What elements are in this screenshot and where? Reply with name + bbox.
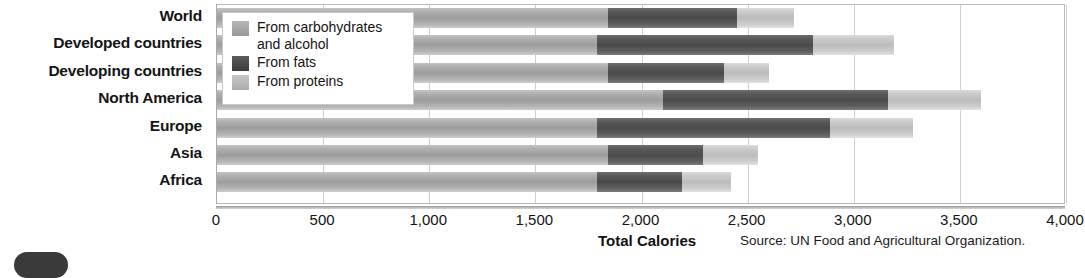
bar-segment-fats (608, 63, 725, 83)
bar-segment-fats (597, 35, 813, 55)
category-label-africa: Africa (159, 170, 202, 190)
bar-row (217, 145, 1066, 165)
bar-segment-fats (597, 118, 830, 138)
bar-segment-proteins (682, 172, 731, 192)
category-label-developing-countries: Developing countries (48, 61, 202, 81)
category-label-europe: Europe (150, 116, 202, 136)
x-tick-label: 1,500 (516, 211, 554, 228)
x-tick-label: 2,500 (728, 211, 766, 228)
bar-segment-proteins (830, 118, 913, 138)
carbohydrates-swatch-icon (232, 21, 249, 36)
legend-label-fats: From fats (257, 54, 316, 71)
legend-item-carbohydrates: From carbohydrates and alcohol (232, 19, 406, 52)
legend-item-fats: From fats (232, 54, 406, 71)
x-tick-label: 500 (310, 211, 335, 228)
x-tick-label: 3,500 (940, 211, 978, 228)
bar-segment-proteins (703, 145, 758, 165)
category-axis: WorldDeveloped countriesDeveloping count… (0, 8, 208, 200)
chart-legend: From carbohydrates and alcohol From fats… (222, 12, 414, 105)
bar-segment-fats (597, 172, 682, 192)
legend-label-proteins: From proteins (257, 73, 343, 90)
bar-segment-proteins (737, 8, 794, 28)
category-label-north-america: North America (98, 88, 202, 108)
bar-segment-fats (663, 90, 888, 110)
bar-segment-carbohydrates (217, 145, 608, 165)
legend-label-carbohydrates: From carbohydrates and alcohol (257, 19, 382, 52)
x-tick-label: 1,000 (409, 211, 447, 228)
page-corner-mark (14, 252, 68, 278)
x-tick-label: 4,000 (1046, 211, 1084, 228)
bar-segment-carbohydrates (217, 172, 597, 192)
x-axis-title: Total Calories (598, 232, 696, 249)
x-axis-line (216, 206, 1065, 209)
bar-segment-fats (608, 145, 704, 165)
category-label-developed-countries: Developed countries (53, 33, 202, 53)
gridline (1066, 5, 1067, 203)
category-label-world: World (159, 6, 202, 26)
bar-row (217, 118, 1066, 138)
bar-segment-proteins (813, 35, 894, 55)
source-note: Source: UN Food and Agricultural Organiz… (740, 233, 1025, 248)
x-axis-tick-labels: 05001,0001,5002,0002,5003,0003,5004,000 (0, 211, 1085, 233)
bar-row (217, 172, 1066, 192)
x-tick-label: 2,000 (622, 211, 660, 228)
legend-item-proteins: From proteins (232, 73, 406, 90)
category-label-asia: Asia (170, 143, 202, 163)
fats-swatch-icon (232, 56, 249, 71)
bar-segment-fats (608, 8, 737, 28)
bar-segment-carbohydrates (217, 118, 597, 138)
x-tick-label: 0 (212, 211, 220, 228)
bar-segment-proteins (888, 90, 981, 110)
bar-segment-proteins (724, 63, 769, 83)
x-tick-label: 3,000 (834, 211, 872, 228)
proteins-swatch-icon (232, 75, 249, 90)
